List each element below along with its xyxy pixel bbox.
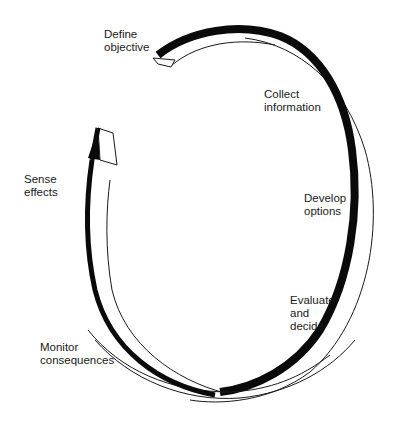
label-develop-options: Develop options [304, 192, 346, 218]
ribbon-left-inner-edge [107, 180, 225, 393]
label-line: effects [24, 186, 58, 199]
label-line: Collect [264, 88, 321, 101]
label-line: options [304, 205, 346, 218]
ribbon-inner-top-edge [172, 42, 275, 65]
label-line: Develop [304, 192, 346, 205]
label-sense-effects: Sense effects [24, 173, 58, 199]
label-line: objective [104, 41, 149, 54]
label-line: consequences [40, 354, 114, 367]
label-define-objective: Define objective [104, 28, 149, 54]
label-line: Evaluate [290, 294, 335, 307]
label-line: Define [104, 28, 149, 41]
label-collect-information: Collect information [264, 88, 321, 114]
label-line: and [290, 307, 335, 320]
label-evaluate-and-decide: Evaluate and decide [290, 294, 335, 333]
cycle-diagram: Define objective Collect information Dev… [0, 0, 407, 433]
label-monitor-consequences: Monitor consequences [40, 341, 114, 367]
label-line: Sense [24, 173, 58, 186]
label-line: information [264, 101, 321, 114]
arrow-end-cap [98, 128, 117, 165]
label-line: Monitor [40, 341, 114, 354]
ribbon-start-cap [153, 58, 175, 67]
label-line: decide [290, 320, 335, 333]
